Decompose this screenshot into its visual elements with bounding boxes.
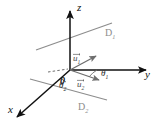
angle-arc-theta1 xyxy=(89,70,97,77)
line-d1-subscript: 1 xyxy=(112,33,115,40)
vector-u1-subscript: 1 xyxy=(78,59,81,65)
angle-theta2-label: θ2 xyxy=(59,81,66,92)
line-d2 xyxy=(30,79,107,100)
angle-theta2-subscript: 2 xyxy=(63,86,66,92)
line-d2-subscript: 2 xyxy=(85,107,88,114)
vector-u2-label: u2 xyxy=(77,80,84,91)
vector-u2-subscript: 2 xyxy=(82,85,85,91)
angle-theta1-subscript: 1 xyxy=(105,74,108,80)
line-d1-label: D1 xyxy=(105,28,115,40)
axis-z-label: z xyxy=(77,2,81,13)
line-d2-label: D2 xyxy=(78,102,88,114)
vector-u1-label: u1 xyxy=(73,54,80,65)
angle-theta1-label: θ1 xyxy=(101,69,108,80)
dashed-helper xyxy=(48,69,68,72)
line-d1 xyxy=(36,23,112,50)
axis-x-label: x xyxy=(8,104,13,115)
geometry-figure: z y x 0 D1 D2 u1 u2 θ1 xyxy=(0,0,160,127)
axis-y-label: y xyxy=(145,69,150,80)
